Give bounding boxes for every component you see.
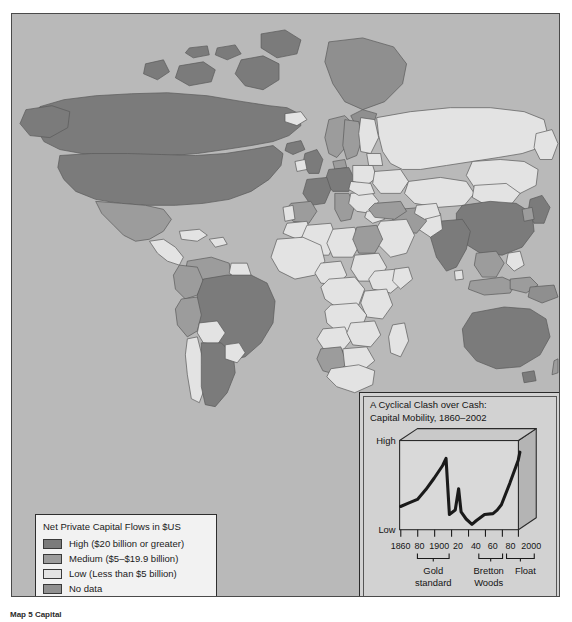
era-label-bretton-woods-line2: Woods (474, 577, 503, 588)
country-russia-kamchatka (534, 130, 558, 160)
legend-item-medium: Medium ($5–$19.9 billion) (43, 551, 210, 566)
legend-label-high: High ($20 billion or greater) (69, 538, 184, 549)
inset-chart-panel: A Cyclical Clash over Cash: Capital Mobi… (359, 392, 560, 597)
island-arctic-small-2 (185, 46, 209, 58)
country-indonesia-1 (468, 277, 516, 295)
legend-swatch-medium (43, 554, 62, 564)
island-ellesmere (261, 30, 301, 58)
legend-item-no-data: No data (43, 581, 210, 596)
legend-swatch-high (43, 539, 62, 549)
legend-label-low: Low (Less than $5 billion) (69, 568, 177, 579)
island-victoria (175, 62, 215, 86)
xtick-1940: 40 (471, 541, 481, 551)
country-russia (377, 108, 548, 170)
xtick-1900: 1900 (429, 541, 449, 551)
world-map-panel: Net Private Capital Flows in $US High ($… (11, 13, 560, 597)
country-australia (462, 307, 550, 369)
island-baffin (235, 56, 279, 90)
xtick-1960: 60 (488, 541, 498, 551)
x-axis-ticks (401, 530, 519, 537)
country-egypt (353, 225, 383, 253)
y-axis-high-label: High (376, 435, 395, 446)
country-tasmania (522, 371, 536, 383)
legend-label-no-data: No data (69, 583, 102, 594)
era-bracket-bretton-woods (479, 553, 503, 561)
xtick-1860: 1860 (391, 541, 411, 551)
country-philippines (506, 251, 524, 271)
country-mexico (96, 201, 172, 241)
xtick-2000: 2000 (521, 541, 541, 551)
country-south-africa (327, 365, 375, 393)
era-label-float: Float (515, 565, 536, 576)
era-label-gold-standard-line2: standard (415, 577, 452, 588)
country-korea (522, 207, 534, 221)
legend-item-low: Low (Less than $5 billion) (43, 566, 210, 581)
era-label-bretton-woods-line1: Bretton (474, 565, 504, 576)
capital-mobility-line-chart: High Low 1860 80 1900 20 40 (360, 393, 560, 597)
era-label-gold-standard-line1: Gold (423, 565, 443, 576)
country-madagascar (389, 323, 409, 357)
country-papua (528, 285, 558, 303)
xtick-1920: 20 (453, 541, 463, 551)
country-finland (359, 118, 379, 154)
country-tanzania-zambia (347, 321, 381, 347)
era-bracket-gold-standard (417, 553, 449, 561)
country-greenland (325, 38, 407, 110)
xtick-1880: 80 (414, 541, 424, 551)
chart-box-right-face (518, 429, 536, 530)
island-banks (144, 60, 170, 80)
country-portugal (283, 205, 295, 221)
era-bracket-float (507, 553, 535, 561)
y-axis-low-label: Low (378, 524, 395, 535)
country-baltics (367, 154, 383, 166)
region-central-america (149, 239, 183, 265)
island-hispaniola (209, 237, 227, 247)
legend-swatch-low (43, 569, 62, 579)
country-ireland (295, 160, 307, 172)
figure-caption: Map 5 Capital (10, 610, 62, 619)
legend-swatch-no-data (43, 584, 62, 594)
x-axis-tick-labels: 1860 80 1900 20 40 60 80 2000 (391, 541, 542, 551)
chart-plot-area (400, 441, 519, 530)
chart-box-top-face (400, 429, 537, 441)
country-kazakhstan (405, 177, 475, 207)
country-ukraine (373, 169, 409, 193)
xtick-1980: 80 (506, 541, 516, 551)
country-new-zealand (552, 359, 558, 375)
country-caribbean-cuba (179, 229, 207, 241)
country-sri-lanka (454, 270, 463, 280)
legend-title: Net Private Capital Flows in $US (43, 520, 210, 533)
legend-label-medium: Medium ($5–$19.9 billion) (69, 553, 178, 564)
country-canada (36, 93, 301, 157)
country-france (303, 177, 331, 205)
map-legend: Net Private Capital Flows in $US High ($… (35, 514, 217, 597)
island-arctic-small-1 (215, 45, 241, 60)
island-newfoundland (285, 141, 305, 155)
legend-item-high: High ($20 billion or greater) (43, 536, 210, 551)
country-united-states (58, 146, 283, 206)
